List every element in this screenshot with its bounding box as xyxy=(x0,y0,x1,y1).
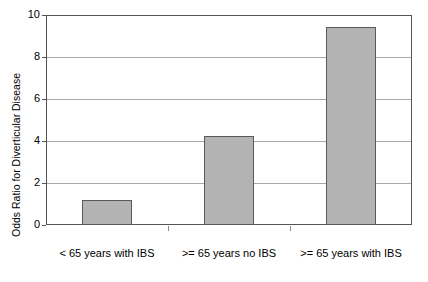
bar-chart: Odds Ratio for Diverticular Disease 0246… xyxy=(0,0,428,282)
x-axis-category-label: >= 65 years with IBS xyxy=(290,246,412,264)
x-axis-tick-mark xyxy=(168,226,169,231)
x-axis-category-labels: < 65 years with IBS>= 65 years no IBS>= … xyxy=(46,246,412,264)
x-axis-tick-mark xyxy=(290,226,291,231)
x-axis-category-label: < 65 years with IBS xyxy=(46,246,168,264)
x-axis-tick-marks xyxy=(0,0,428,282)
x-axis-category-label: >= 65 years no IBS xyxy=(168,246,290,264)
